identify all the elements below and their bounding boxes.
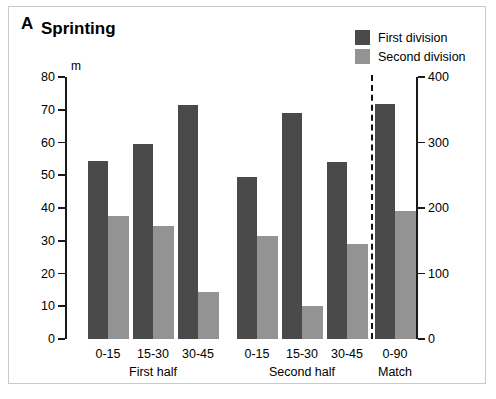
y-tick-left-70 — [58, 109, 65, 111]
y-tick-label-left-70: 70 — [41, 104, 55, 117]
bar-first-division-30-45-2 — [178, 105, 199, 339]
x-axis-label-4: 15-30 — [286, 347, 318, 361]
bar-second-division-30-45-2 — [198, 292, 219, 339]
bar-chart: m 01020304050607080 0100200300400 0-1515… — [9, 7, 487, 385]
y-tick-right-200 — [418, 207, 425, 209]
y-tick-label-left-60: 60 — [41, 136, 55, 149]
x-axis-label-5: 30-45 — [331, 347, 363, 361]
x-axis-label-6: 0-90 — [382, 347, 407, 361]
y-tick-label-right-200: 200 — [428, 202, 449, 215]
bar-first-division-30-45-5 — [327, 162, 348, 339]
y-tick-label-left-30: 30 — [41, 235, 55, 248]
bar-first-division-15-30-4 — [282, 113, 303, 339]
plot-area: m 01020304050607080 0100200300400 0-1515… — [65, 77, 418, 339]
y-tick-left-40 — [58, 207, 65, 209]
y-tick-label-left-20: 20 — [41, 267, 55, 280]
y-tick-label-left-80: 80 — [41, 71, 55, 84]
y-tick-label-right-100: 100 — [428, 267, 449, 280]
y-tick-left-10 — [58, 305, 65, 307]
bar-second-division-0-90-6 — [395, 211, 416, 339]
bar-second-division-15-30-1 — [153, 226, 174, 339]
y-tick-label-right-300: 300 — [428, 136, 449, 149]
x-axis-label-2: 30-45 — [182, 347, 214, 361]
y-tick-right-100 — [418, 273, 425, 275]
x-axis-group-label-first-half: First half — [129, 365, 177, 379]
bar-second-division-0-15-0 — [108, 216, 129, 339]
bar-first-division-0-90-6 — [375, 104, 396, 339]
y-axis-unit-label: m — [71, 59, 81, 73]
y-tick-left-50 — [58, 174, 65, 176]
y-tick-label-left-50: 50 — [41, 169, 55, 182]
y-tick-label-left-0: 0 — [48, 333, 55, 346]
x-axis-group-label-match: Match — [378, 365, 412, 379]
y-tick-left-30 — [58, 240, 65, 242]
y-tick-left-80 — [58, 76, 65, 78]
y-tick-label-right-0: 0 — [428, 333, 435, 346]
bar-first-division-0-15-3 — [237, 177, 258, 339]
y-tick-right-300 — [418, 142, 425, 144]
bar-second-division-15-30-4 — [302, 306, 323, 339]
y-tick-right-0 — [418, 338, 425, 340]
y-tick-label-right-400: 400 — [428, 71, 449, 84]
y-tick-label-left-10: 10 — [41, 300, 55, 313]
y-tick-left-60 — [58, 142, 65, 144]
x-axis-group-label-second-half: Second half — [269, 365, 335, 379]
y-tick-left-0 — [58, 338, 65, 340]
chart-panel: A Sprinting First division Second divisi… — [8, 6, 486, 384]
x-axis-label-0: 0-15 — [95, 347, 120, 361]
match-divider-line — [371, 75, 373, 339]
y-axis-left-line — [65, 77, 67, 339]
y-tick-right-400 — [418, 76, 425, 78]
bar-first-division-15-30-1 — [133, 144, 154, 339]
x-axis-label-1: 15-30 — [137, 347, 169, 361]
y-tick-left-20 — [58, 273, 65, 275]
x-axis-label-3: 0-15 — [244, 347, 269, 361]
bar-second-division-30-45-5 — [347, 244, 368, 339]
y-tick-label-left-40: 40 — [41, 202, 55, 215]
bar-second-division-0-15-3 — [257, 236, 278, 339]
bar-first-division-0-15-0 — [88, 161, 109, 339]
